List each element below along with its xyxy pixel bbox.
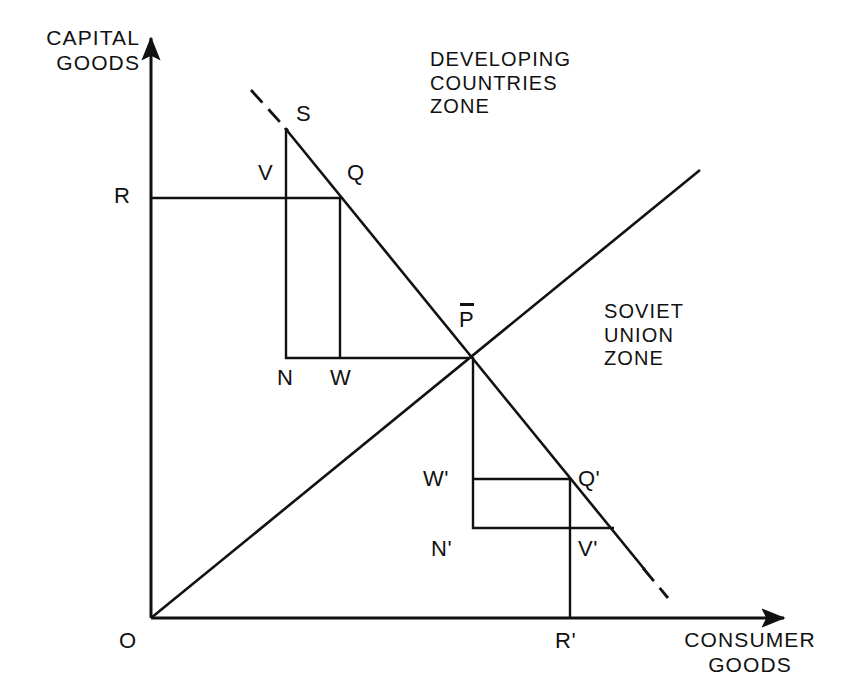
economics-diagram: CAPITAL GOODS CONSUMER GOODS DEVELOPING … [0, 0, 848, 697]
zone-label-soviet-union: SOVIET UNION ZONE [604, 300, 684, 371]
point-label-S: S [296, 101, 311, 127]
point-label-P-bar: P [459, 303, 474, 333]
zone-label-developing-countries: DEVELOPING COUNTRIES ZONE [430, 48, 571, 119]
point-label-V: V [258, 160, 273, 186]
point-label-Q: Q [347, 160, 365, 186]
point-label-P: P [459, 307, 474, 332]
point-label-W: W [330, 365, 351, 391]
point-label-Nprime: N' [431, 536, 452, 562]
point-label-N: N [277, 365, 293, 391]
point-label-Wprime: W' [423, 466, 449, 492]
diagram-canvas [0, 0, 848, 697]
point-label-origin: O [119, 628, 137, 654]
y-axis-title: CAPITAL GOODS [6, 26, 140, 76]
forty-five-degree-ray [151, 170, 700, 618]
point-label-Rprime: R' [555, 628, 576, 654]
point-label-Qprime: Q' [578, 466, 600, 492]
overbar [460, 303, 474, 306]
point-label-R: R [114, 183, 130, 209]
point-label-Vprime: V' [578, 536, 598, 562]
x-axis-title: CONSUMER GOODS [660, 628, 840, 678]
frontier-dashed-upper [251, 90, 288, 131]
frontier-dashed-lower [643, 568, 668, 598]
